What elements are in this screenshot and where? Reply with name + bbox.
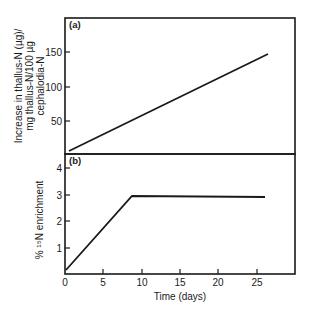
a-tick-150: 150 bbox=[45, 47, 62, 58]
b-tick-3: 3 bbox=[56, 190, 62, 201]
a-tick-100: 100 bbox=[45, 82, 62, 93]
panel-b-y-axis: 4 3 2 1 bbox=[56, 163, 70, 254]
x-tick-20: 20 bbox=[212, 277, 224, 288]
x-tick-5: 5 bbox=[100, 277, 106, 288]
panel-b-y-label: % ¹⁵N enrichment bbox=[34, 180, 45, 259]
svg-text:cephalodia-N: cephalodia-N bbox=[35, 57, 46, 116]
a-tick-50: 50 bbox=[51, 116, 63, 127]
svg-text:mg thallus-N/100 µg: mg thallus-N/100 µg bbox=[24, 41, 35, 131]
b-tick-4: 4 bbox=[56, 163, 62, 174]
x-tick-0: 0 bbox=[62, 277, 68, 288]
svg-text:% ¹⁵N enrichment: % ¹⁵N enrichment bbox=[34, 180, 45, 259]
panel-b-frame bbox=[65, 154, 295, 274]
figure: (a) (b) 150 100 50 Increase in thallus-N… bbox=[0, 0, 311, 317]
x-axis-label: Time (days) bbox=[154, 291, 206, 302]
panel-a-frame bbox=[65, 18, 295, 154]
svg-text:Increase in thallus-N (µg)/: Increase in thallus-N (µg)/ bbox=[13, 28, 24, 143]
x-tick-25: 25 bbox=[251, 277, 263, 288]
panel-a-y-label: Increase in thallus-N (µg)/ mg thallus-N… bbox=[13, 28, 46, 143]
panel-a-line bbox=[69, 54, 268, 151]
panel-a-label: (a) bbox=[69, 19, 81, 30]
b-tick-2: 2 bbox=[56, 216, 62, 227]
panel-a-y-axis: 150 100 50 bbox=[45, 47, 70, 127]
x-tick-15: 15 bbox=[174, 277, 186, 288]
x-tick-10: 10 bbox=[136, 277, 148, 288]
panel-b-label: (b) bbox=[69, 155, 81, 166]
panel-b-line bbox=[66, 196, 265, 270]
x-axis: 0 5 10 15 20 25 bbox=[62, 269, 263, 288]
b-tick-1: 1 bbox=[56, 243, 62, 254]
